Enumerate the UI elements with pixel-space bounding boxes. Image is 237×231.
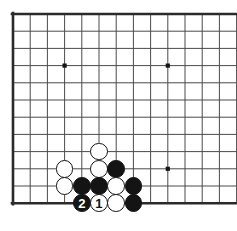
star-point-lower-right [166, 167, 170, 171]
stone-black-move-2-label: 2 [78, 197, 85, 210]
board-border [12, 13, 237, 204]
stone-white-c3r9[interactable] [56, 160, 74, 178]
stone-black-c4r10[interactable] [73, 177, 91, 195]
stone-black-c7r10[interactable] [125, 177, 143, 195]
stone-white-move-1-label: 1 [95, 197, 102, 210]
stone-white-move-1[interactable]: 1 [90, 194, 108, 212]
stone-black-c7r11[interactable] [125, 194, 143, 212]
stone-white-c5r9[interactable] [90, 160, 108, 178]
stone-black-move-2[interactable]: 2 [73, 194, 91, 212]
stone-white-c6r10[interactable] [107, 177, 125, 195]
star-point-upper-right [166, 64, 170, 68]
grid-lines [13, 14, 237, 203]
stone-white-c3r10[interactable] [56, 177, 74, 195]
stone-black-c6r9[interactable] [107, 160, 125, 178]
stone-white-c6r11[interactable] [107, 194, 125, 212]
star-point-upper-left [63, 64, 67, 68]
go-diagram: 21 [0, 0, 237, 231]
stone-white-c5r8[interactable] [90, 143, 108, 161]
stone-black-c5r10[interactable] [90, 177, 108, 195]
